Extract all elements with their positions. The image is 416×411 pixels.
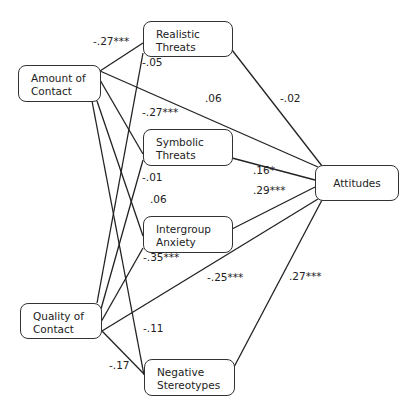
coefficient-quality-anxiety: -.35*** — [143, 251, 179, 263]
node-label-line: Contact — [33, 323, 101, 336]
coefficient-amount-realistic: -.27*** — [93, 35, 129, 47]
node-label-line: Contact — [31, 85, 100, 98]
node-realistic: RealisticThreats — [143, 21, 233, 57]
node-attitudes: Attitudes — [315, 165, 399, 201]
edge-amount-to-realistic — [100, 43, 143, 71]
node-quality: Quality ofContact — [20, 303, 102, 339]
node-label-line: Stereotypes — [157, 379, 234, 392]
node-anxiety: IntergroupAnxiety — [143, 216, 233, 253]
node-label-line: Realistic — [156, 28, 232, 41]
edge-quality-to-realistic — [97, 53, 143, 303]
node-label-line: Quality of — [33, 310, 101, 323]
node-stereotypes: NegativeStereotypes — [144, 359, 235, 396]
coefficient-amount-stereotypes: -.11 — [143, 322, 164, 334]
coefficient-symbolic-attitudes: .16* — [253, 164, 275, 176]
coefficient-amount-anxiety: .06 — [150, 193, 167, 205]
node-label-line: Intergroup — [156, 223, 232, 236]
coefficient-realistic-attitudes: -.02 — [280, 92, 301, 104]
node-amount: Amount ofContact — [18, 65, 101, 102]
node-label-line: Attitudes — [333, 177, 381, 190]
coefficient-quality-realistic: -.05 — [142, 56, 163, 68]
node-label-line: Threats — [156, 149, 232, 162]
node-label-line: Anxiety — [156, 236, 232, 249]
coefficient-amount-attitudes: .06 — [205, 92, 222, 104]
coefficient-quality-attitudes: -.25*** — [207, 271, 243, 283]
node-label-line: Threats — [156, 41, 232, 54]
edge-amount-to-anxiety — [97, 101, 143, 236]
node-label-line: Amount of — [31, 72, 100, 85]
coefficient-quality-stereotypes: -.17 — [109, 359, 130, 371]
coefficient-anxiety-attitudes: .29*** — [253, 184, 285, 196]
coefficient-stereotypes-attitudes: .27*** — [289, 270, 321, 282]
coefficient-amount-symbolic: -.27*** — [142, 106, 178, 118]
node-label-line: Symbolic — [156, 136, 232, 149]
edge-stereotypes-to-attitudes — [234, 200, 322, 367]
edge-layer — [0, 0, 416, 411]
node-label-line: Negative — [157, 366, 234, 379]
node-symbolic: SymbolicThreats — [143, 129, 233, 166]
coefficient-quality-symbolic: -.01 — [142, 171, 163, 183]
path-diagram: Amount ofContactQuality ofContactRealist… — [0, 0, 416, 411]
